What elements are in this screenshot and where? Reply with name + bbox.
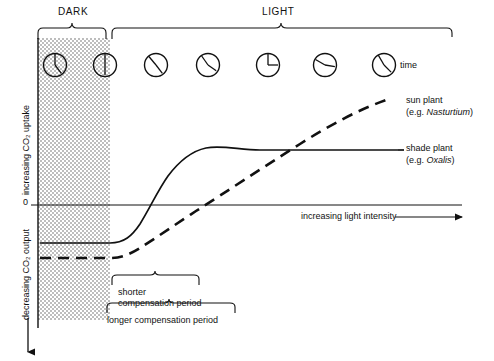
zero-value: 0 [23,198,28,207]
clock-row [0,0,494,361]
legend-sun-prefix: (e.g. [406,107,427,117]
shorter-compensation-label-line1: shorter [118,288,146,297]
time-label: time [400,61,417,70]
y-axis-upper-label: increasing CO₂ uptake [22,105,31,195]
light-label: LIGHT [262,7,294,17]
y-axis-lower-label: decreasing CO₂ output [22,229,31,320]
legend-shade-prefix: (e.g. [406,155,427,165]
clock-4 [197,54,220,77]
clock-2 [94,54,117,77]
clock-7 [373,54,396,77]
legend-shade-suffix: ) [452,155,455,165]
legend-shade-plant-line2: (e.g. Oxalis) [406,156,455,165]
legend-sun-plant-line1: sun plant [406,96,443,105]
legend-sun-species: Nasturtium [427,107,471,117]
x-axis-label: increasing light intensity [301,212,397,221]
dark-label: DARK [58,7,88,17]
legend-shade-plant-line1: shade plant [406,144,453,153]
legend-sun-plant-line2: (e.g. Nasturtium) [406,108,473,117]
clock-6 [314,54,337,77]
legend-shade-species: Oxalis [427,155,452,165]
clock-5 [257,54,280,77]
clock-1 [44,54,67,77]
diagram-canvas: DARK LIGHT time 0 increasing CO₂ uptake … [0,0,494,361]
shorter-compensation-label-line2: compensation period [118,299,202,308]
longer-compensation-label: longer compensation period [107,316,218,325]
legend-sun-suffix: ) [470,107,473,117]
clock-3 [145,54,168,77]
